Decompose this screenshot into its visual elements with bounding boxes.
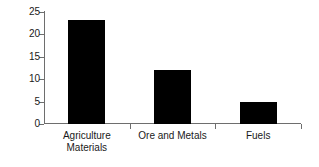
x-axis-separator-tick — [215, 124, 216, 129]
category-label: Agriculture Materials — [44, 130, 130, 153]
x-axis-end-tick — [301, 124, 302, 129]
bars-group — [44, 12, 301, 124]
bar — [154, 70, 191, 124]
bar — [240, 102, 277, 124]
bar — [68, 20, 105, 124]
bar-chart: 0510152025 Agriculture MaterialsOre and … — [0, 0, 319, 167]
x-axis-separator-tick — [130, 124, 131, 129]
y-axis-tick-label: 10 — [29, 74, 40, 84]
y-axis-tick-label: 20 — [29, 29, 40, 39]
y-axis-tick-label: 25 — [29, 7, 40, 17]
y-axis-tick-label: 15 — [29, 52, 40, 62]
category-label: Fuels — [215, 130, 301, 142]
category-label: Ore and Metals — [130, 130, 216, 142]
y-axis-tick-label: 0 — [34, 119, 40, 129]
y-axis-tick-label: 5 — [34, 97, 40, 107]
